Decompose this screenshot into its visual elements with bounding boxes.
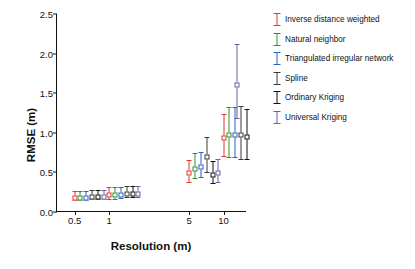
- error-cap-top: [239, 106, 244, 107]
- x-tick-label: 5: [187, 215, 192, 226]
- marker: [210, 172, 215, 177]
- y-tick-label: 2.0: [40, 48, 53, 59]
- marker: [130, 191, 135, 196]
- marker: [119, 192, 124, 197]
- error-cap-top: [136, 186, 141, 187]
- error-cap-bottom: [187, 182, 192, 183]
- chart-figure: RMSE (m) Resolution (m) 0.00.51.01.52.02…: [0, 0, 415, 269]
- marker: [234, 82, 239, 87]
- error-cap-top: [210, 161, 215, 162]
- legend-item: Inverse distance weighted: [272, 10, 415, 30]
- error-cap-bottom: [192, 178, 197, 179]
- error-cap-bottom: [113, 199, 118, 200]
- marker: [136, 191, 141, 196]
- legend-error-bar-icon: [272, 72, 281, 85]
- legend-error-bar-icon: [272, 52, 281, 65]
- error-cap-bottom: [119, 198, 124, 199]
- x-tick-label: 1: [107, 215, 112, 226]
- marker: [107, 193, 112, 198]
- error-cap-bottom: [210, 183, 215, 184]
- error-cap-top: [119, 187, 124, 188]
- legend-item: Ordinary Kriging: [272, 88, 415, 108]
- legend: Inverse distance weightedNatural neighbo…: [272, 10, 415, 127]
- legend-item: Universal Kriging: [272, 108, 415, 128]
- legend-label: Natural neighbor: [285, 35, 346, 44]
- marker: [113, 193, 118, 198]
- error-cap-bottom: [136, 197, 141, 198]
- legend-label: Spline: [285, 74, 308, 83]
- error-cap-top: [72, 191, 77, 192]
- error-cap-bottom: [124, 197, 129, 198]
- y-tick-label: 1.5: [40, 88, 53, 99]
- error-cap-top: [101, 190, 106, 191]
- error-cap-top: [107, 187, 112, 188]
- y-tick: [53, 172, 57, 173]
- marker: [239, 133, 244, 138]
- x-tick-label: 0.5: [68, 215, 81, 226]
- error-cap-bottom: [130, 197, 135, 198]
- plot-area: RMSE (m) Resolution (m) 0.00.51.01.52.02…: [0, 0, 270, 269]
- error-cap-bottom: [234, 118, 239, 119]
- marker: [204, 155, 209, 160]
- error-cap-bottom: [239, 159, 244, 160]
- error-cap-bottom: [198, 177, 203, 178]
- error-cap-top: [227, 107, 232, 108]
- marker: [216, 171, 221, 176]
- legend-label: Triangulated irregular network: [285, 54, 393, 63]
- marker: [192, 166, 197, 171]
- marker: [221, 135, 226, 140]
- marker: [72, 195, 77, 200]
- legend-item: Triangulated irregular network: [272, 49, 415, 69]
- error-cap-bottom: [233, 157, 238, 158]
- error-cap-top: [234, 44, 239, 45]
- legend-error-bar-icon: [272, 33, 281, 46]
- error-cap-top: [84, 191, 89, 192]
- legend-error-bar-icon: [272, 13, 281, 26]
- x-tick-label: 10: [218, 215, 229, 226]
- error-cap-bottom: [204, 172, 209, 173]
- marker: [78, 195, 83, 200]
- marker: [90, 195, 95, 200]
- error-cap-top: [130, 186, 135, 187]
- error-cap-top: [187, 160, 192, 161]
- legend-item: Natural neighbor: [272, 30, 415, 50]
- error-cap-top: [96, 190, 101, 191]
- error-cap-top: [192, 153, 197, 154]
- marker: [187, 171, 192, 176]
- error-cap-top: [216, 159, 221, 160]
- error-cap-top: [124, 186, 129, 187]
- marker: [101, 195, 106, 200]
- error-cap-bottom: [216, 182, 221, 183]
- marker: [124, 191, 129, 196]
- legend-label: Universal Kriging: [285, 113, 347, 122]
- marker: [233, 133, 238, 138]
- error-cap-top: [221, 114, 226, 115]
- error-cap-bottom: [227, 157, 232, 158]
- error-cap-top: [245, 109, 250, 110]
- y-tick: [53, 212, 57, 213]
- y-tick: [53, 93, 57, 94]
- error-cap-top: [113, 187, 118, 188]
- x-axis-label: Resolution (m): [56, 240, 246, 252]
- error-cap-bottom: [221, 156, 226, 157]
- error-cap-bottom: [245, 159, 250, 160]
- legend-error-bar-icon: [272, 91, 281, 104]
- marker: [245, 134, 250, 139]
- y-tick: [53, 53, 57, 54]
- y-tick-label: 0.0: [40, 207, 53, 218]
- error-cap-top: [90, 190, 95, 191]
- marker: [84, 195, 89, 200]
- marker: [198, 164, 203, 169]
- marker: [96, 195, 101, 200]
- error-bar: [236, 44, 237, 118]
- legend-error-bar-icon: [272, 111, 281, 124]
- y-tick: [53, 14, 57, 15]
- axes: 0.00.51.01.52.02.50.51510: [56, 14, 246, 212]
- legend-item: Spline: [272, 69, 415, 89]
- marker: [227, 133, 232, 138]
- legend-label: Ordinary Kriging: [285, 93, 344, 102]
- error-cap-bottom: [107, 199, 112, 200]
- y-tick-label: 0.5: [40, 167, 53, 178]
- y-tick-label: 2.5: [40, 9, 53, 20]
- error-cap-top: [78, 191, 83, 192]
